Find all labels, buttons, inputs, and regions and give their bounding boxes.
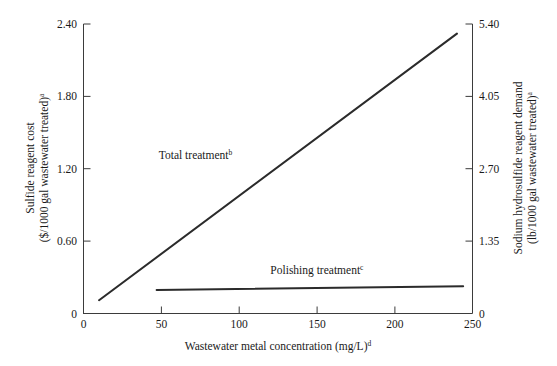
y-left-tick-label-0: 0 — [71, 308, 77, 320]
y-right-tick-label-2_70: 2.70 — [479, 163, 499, 175]
y-left-axis-title-line2: ($/1000 gal wastewater treated)a — [37, 93, 52, 242]
y-right-axis-title-line1: Sodium hydrosulfide reagent demand — [512, 81, 525, 254]
x-tick-label-200: 200 — [386, 318, 404, 330]
chart-canvas: 2.40 1.80 1.20 0.60 0 5.40 4.05 2.70 1.3… — [0, 0, 557, 366]
x-tick-label-0: 0 — [81, 318, 87, 330]
polishing-treatment-line — [157, 286, 464, 290]
polishing-treatment-label-superscript: c — [360, 262, 364, 271]
y-left-axis-title-superscript: a — [37, 93, 46, 97]
bottom-axis-ticks — [161, 307, 395, 314]
y-right-axis-title-line2-text: (lb/1000 gal wastewater treated) — [526, 95, 539, 244]
polishing-treatment-label: Polishing treatmentc — [270, 262, 364, 277]
total-treatment-line — [99, 34, 457, 301]
y-left-axis-title-line2-text: ($/1000 gal wastewater treated) — [38, 97, 51, 242]
y-left-tick-label-1_80: 1.80 — [57, 90, 77, 102]
y-right-tick-label-5_40: 5.40 — [479, 18, 499, 30]
y-left-axis-title-line1: Sulfide reagent cost — [24, 122, 37, 214]
y-left-tick-label-2_40: 2.40 — [57, 18, 77, 30]
y-right-tick-label-4_05: 4.05 — [479, 90, 499, 102]
chart-figure: 2.40 1.80 1.20 0.60 0 5.40 4.05 2.70 1.3… — [0, 0, 557, 366]
y-right-axis-title-superscript: a — [525, 91, 534, 95]
total-treatment-label-text: Total treatment — [159, 149, 230, 161]
total-treatment-label-superscript: b — [229, 148, 233, 157]
y-right-axis-title-line2: (lb/1000 gal wastewater treated)a — [525, 91, 540, 243]
y-right-tick-label-1_35: 1.35 — [479, 235, 499, 247]
x-axis-title-superscript: d — [367, 339, 371, 348]
y-left-axis-title: Sulfide reagent cost ($/1000 gal wastewa… — [24, 93, 51, 242]
total-treatment-label: Total treatmentb — [159, 148, 233, 162]
x-tick-label-150: 150 — [308, 318, 326, 330]
x-tick-label-50: 50 — [156, 318, 168, 330]
right-axis-ticks — [466, 24, 473, 241]
y-left-tick-label-1_20: 1.20 — [57, 163, 77, 175]
left-axis-ticks — [84, 24, 91, 241]
x-tick-label-100: 100 — [231, 318, 249, 330]
x-axis-title-text: Wastewater metal concentration (mg/L) — [185, 340, 368, 353]
x-tick-label-250: 250 — [464, 318, 482, 330]
y-left-tick-label-0_60: 0.60 — [57, 235, 77, 247]
x-axis-title: Wastewater metal concentration (mg/L)d — [185, 339, 372, 354]
y-right-axis-title: Sodium hydrosulfide reagent demand (lb/1… — [512, 81, 539, 254]
polishing-treatment-label-text: Polishing treatment — [270, 264, 361, 277]
